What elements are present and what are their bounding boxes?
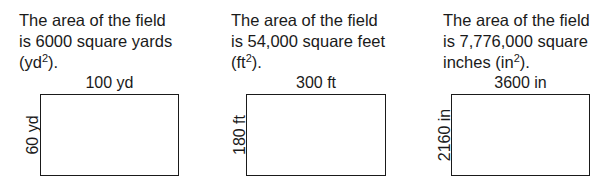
caption-line: is 54,000 square feet (231, 31, 385, 52)
panel-inches: The area of the field is 7,776,000 squar… (443, 0, 599, 187)
caption-line: The area of the field (443, 10, 590, 31)
caption-line: The area of the field (231, 10, 385, 31)
caption-line: (yd2). (19, 52, 172, 73)
caption-line: is 7,776,000 square (443, 31, 590, 52)
field-rectangle (246, 94, 386, 176)
caption-text: inches (in (443, 53, 514, 71)
caption-line: inches (in2). (443, 52, 590, 73)
caption-text: (ft (231, 53, 246, 71)
caption-text: ). (252, 53, 262, 71)
caption: The area of the field is 6000 square yar… (19, 10, 172, 73)
caption-line: The area of the field (19, 10, 172, 31)
caption-text: ). (520, 53, 530, 71)
caption-text: ). (48, 53, 58, 71)
caption-line: is 6000 square yards (19, 31, 172, 52)
panel-feet: The area of the field is 54,000 square f… (231, 0, 411, 187)
caption: The area of the field is 54,000 square f… (231, 10, 385, 73)
caption-line: (ft2). (231, 52, 385, 73)
width-label: 300 ft (246, 74, 386, 92)
field-rectangle (451, 94, 590, 176)
field-rectangle (40, 94, 179, 176)
caption-text: (yd (19, 53, 42, 71)
width-label: 100 yd (40, 74, 179, 92)
caption: The area of the field is 7,776,000 squar… (443, 10, 590, 73)
width-label: 3600 in (451, 74, 590, 92)
panel-yards: The area of the field is 6000 square yar… (19, 0, 199, 187)
